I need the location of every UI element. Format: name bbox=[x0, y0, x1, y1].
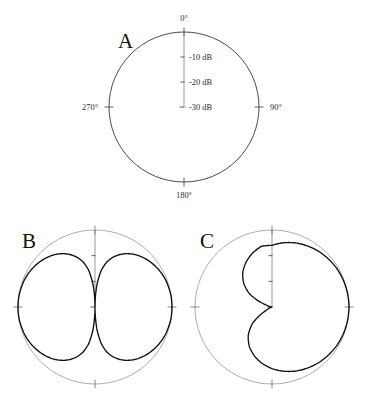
db-label-20db: -20 dB bbox=[189, 78, 212, 87]
figure-canvas: -10 dB-20 dB-30 dB0°90°180°270°ABC bbox=[0, 0, 367, 399]
db-label-30db: -30 dB bbox=[189, 103, 212, 112]
panel-letter-b: B bbox=[22, 229, 36, 253]
angle-label-270: 270° bbox=[82, 103, 98, 112]
panel-letter-c: C bbox=[200, 229, 214, 253]
angle-label-180: 180° bbox=[176, 191, 192, 200]
db-label-10db: -10 dB bbox=[189, 53, 212, 62]
panel-letter-a: A bbox=[118, 29, 134, 53]
angle-label-0: 0° bbox=[180, 14, 188, 23]
polar-radiation-pattern-figure: -10 dB-20 dB-30 dB0°90°180°270°ABC bbox=[0, 0, 367, 399]
angle-label-90: 90° bbox=[270, 103, 282, 112]
